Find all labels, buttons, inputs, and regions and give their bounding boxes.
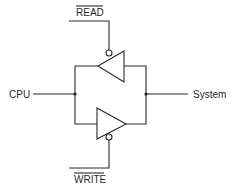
read-buffer [98, 50, 124, 82]
write-enable-wire [69, 140, 109, 168]
system-label: System [193, 89, 226, 100]
write-label: WRITE [74, 174, 107, 185]
cpu-label: CPU [9, 89, 30, 100]
cpu-side-rail [75, 66, 98, 124]
read-label: READ [76, 7, 104, 18]
write-enable-bubble-icon [106, 134, 112, 140]
write-signal: WRITE [69, 140, 109, 185]
cpu-junction-dot-icon [73, 92, 76, 95]
write-buffer-triangle-icon [97, 108, 126, 139]
read-signal: READ [69, 6, 109, 50]
write-buffer [97, 108, 126, 140]
read-enable-wire [69, 21, 109, 50]
buffer-diagram: READ CPU System WRITE [0, 0, 234, 193]
system-junction-dot-icon [144, 92, 147, 95]
read-enable-bubble-icon [106, 50, 112, 56]
system-side-rail [124, 66, 146, 124]
